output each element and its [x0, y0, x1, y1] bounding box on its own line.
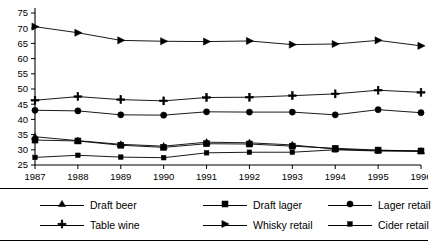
y-tick-label: 55 [17, 68, 28, 79]
legend-marker-wrap [344, 216, 356, 234]
data-point-marker [246, 37, 253, 44]
series-lager-retail [32, 107, 424, 119]
y-tick-label: 35 [17, 129, 28, 140]
legend-sample-line [328, 199, 372, 211]
data-point-marker [31, 96, 39, 104]
data-point-marker [160, 97, 168, 105]
y-tick-label: 45 [17, 99, 28, 110]
x-tick-label: 1990 [153, 171, 174, 182]
legend-marker-wrap [344, 196, 356, 214]
data-point-marker [118, 142, 124, 148]
legend-sample-line [40, 219, 84, 231]
legend-item-label: Draft beer [90, 199, 137, 211]
y-tick-label: 30 [17, 144, 28, 155]
data-point-marker [375, 37, 382, 44]
x-tick-label: 1991 [196, 171, 217, 182]
legend-sample-line [203, 199, 247, 211]
data-point-marker [331, 90, 339, 98]
data-point-marker [161, 144, 167, 150]
y-axis-ticks: 2530354045505560657075 [17, 7, 35, 170]
data-point-marker [32, 107, 38, 113]
legend-item-draft-lager[interactable]: Draft lager [203, 197, 302, 213]
data-point-marker [288, 92, 296, 100]
legend-marker-wrap [56, 196, 68, 214]
series-line [35, 150, 421, 158]
data-point-marker [74, 93, 82, 101]
y-tick-label: 70 [17, 23, 28, 34]
y-tick-label: 40 [17, 114, 28, 125]
data-point-marker [246, 141, 252, 147]
data-point-marker [75, 108, 81, 114]
data-point-marker [204, 151, 209, 156]
x-tick-label: 1988 [67, 171, 88, 182]
data-point-marker [417, 88, 425, 96]
legend-entries: Draft beerDraft lagerLager retailTable w… [0, 189, 428, 240]
data-point-marker [246, 109, 252, 115]
legend-item-draft-beer[interactable]: Draft beer [40, 197, 137, 213]
data-point-marker [161, 112, 167, 118]
y-tick-label: 75 [17, 7, 28, 18]
data-point-marker [332, 40, 339, 47]
data-point-marker [374, 86, 382, 94]
y-tick-label: 65 [17, 38, 28, 49]
y-tick-label: 60 [17, 53, 28, 64]
data-point-marker [203, 38, 210, 45]
data-point-marker [375, 107, 381, 113]
x-tick-label: 1993 [282, 171, 303, 182]
legend-sample-line [328, 219, 372, 231]
data-point-marker [76, 153, 81, 158]
legend-sample-line [203, 219, 247, 231]
legend-item-table-wine[interactable]: Table wine [40, 217, 140, 233]
data-point-marker [418, 42, 425, 49]
data-point-marker [118, 112, 124, 118]
series-line [35, 90, 421, 101]
data-point-marker [419, 149, 424, 154]
legend-item-lager-retail[interactable]: Lager retail [328, 197, 431, 213]
x-axis-ticks: 1987198819891990199119921993199419951996 [24, 165, 428, 182]
data-point-marker [289, 109, 295, 115]
legend-marker-icon [56, 198, 68, 210]
series-table-wine [31, 86, 425, 105]
plot-area: 2530354045505560657075 19871988198919901… [0, 0, 428, 186]
data-point-marker [118, 155, 123, 160]
legend-marker-icon [219, 218, 231, 230]
x-tick-label: 1996 [410, 171, 428, 182]
legend-marker-icon [344, 198, 356, 210]
data-point-marker [75, 29, 82, 36]
data-point-marker [32, 137, 38, 143]
legend-item-label: Lager retail [378, 199, 431, 211]
y-tick-label: 50 [17, 83, 28, 94]
data-point-marker [289, 41, 296, 48]
data-point-marker [376, 149, 381, 154]
data-point-marker [332, 112, 338, 118]
data-point-marker [75, 138, 81, 144]
x-tick-label: 1989 [110, 171, 131, 182]
data-point-marker [161, 155, 166, 160]
data-point-marker [203, 94, 211, 102]
data-point-marker [247, 150, 252, 155]
legend-item-whisky-retail[interactable]: Whisky retail [203, 217, 313, 233]
legend-item-cider-retail[interactable]: Cider retail [328, 217, 429, 233]
axis-lines [35, 8, 421, 165]
data-point-marker [117, 96, 125, 104]
data-point-marker [204, 141, 210, 147]
legend-marker-wrap [56, 216, 68, 234]
x-tick-label: 1987 [24, 171, 45, 182]
legend-marker-icon [344, 218, 356, 230]
legend-marker-icon [56, 218, 68, 230]
series-whisky-retail [32, 23, 425, 49]
data-point-marker [333, 148, 338, 153]
series-line [35, 27, 421, 46]
data-point-marker [161, 38, 168, 45]
data-point-marker [418, 110, 424, 116]
chart-legend: Draft beerDraft lagerLager retailTable w… [0, 188, 428, 241]
x-tick-label: 1994 [325, 171, 346, 182]
y-tick-label: 25 [17, 159, 28, 170]
x-tick-label: 1992 [239, 171, 260, 182]
series-group [31, 23, 425, 160]
data-point-marker [33, 155, 38, 160]
legend-marker-icon [219, 198, 231, 210]
data-point-marker [118, 37, 125, 44]
legend-item-label: Whisky retail [253, 219, 313, 231]
